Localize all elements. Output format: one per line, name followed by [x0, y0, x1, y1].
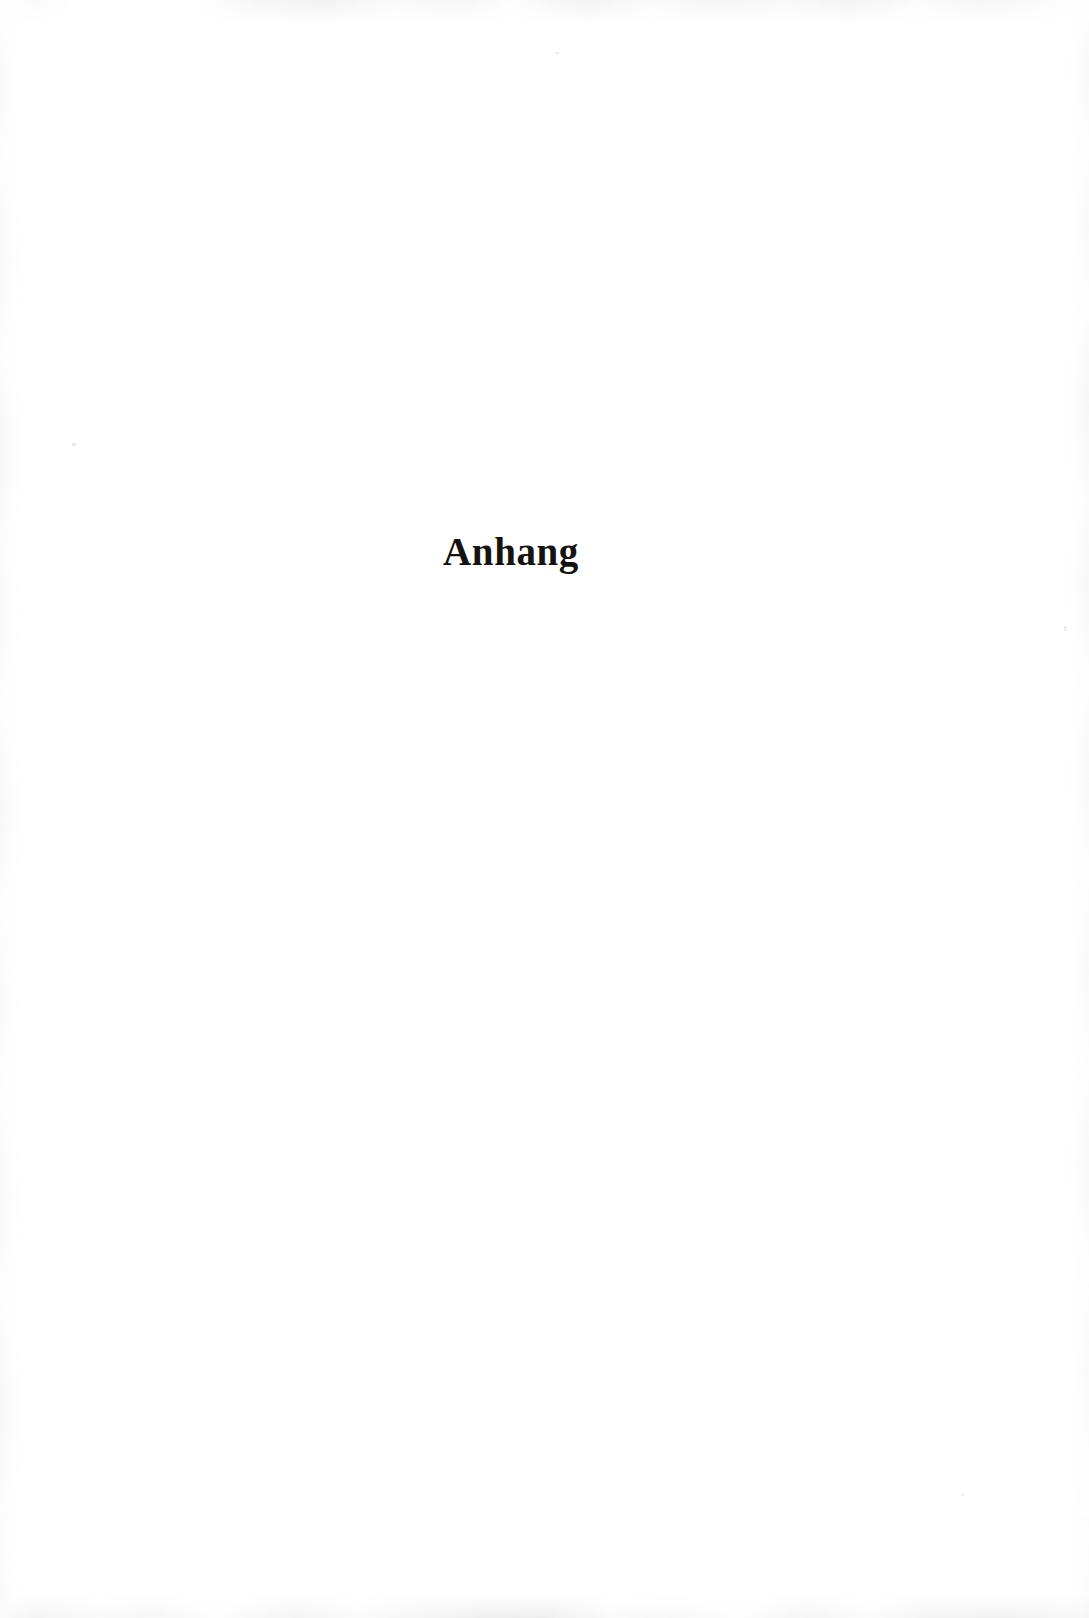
- page-title: Anhang: [0, 519, 1022, 585]
- page-content: Anhang: [0, 0, 1089, 1618]
- scanned-page: Anhang: [0, 0, 1089, 1618]
